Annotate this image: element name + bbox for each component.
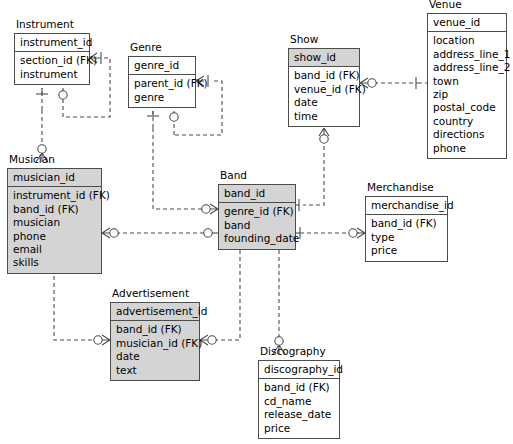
field-attribute: postal_code bbox=[433, 101, 502, 114]
attribute-rows: band_id (FK) musician_id (FK) date text bbox=[111, 321, 199, 380]
field-attribute: phone bbox=[13, 230, 97, 243]
field-attribute: genre bbox=[134, 91, 191, 104]
attribute-rows: band_id (FK) venue_id (FK) date time bbox=[289, 67, 359, 126]
er-diagram-canvas: Instrument instrument_id section_id (FK)… bbox=[0, 0, 513, 444]
field-attribute: band_id (FK) bbox=[294, 69, 355, 82]
field-attribute: parent_id (FK) bbox=[134, 77, 191, 90]
field-attribute: release_date bbox=[264, 408, 335, 421]
attribute-rows: instrument_id (FK) band_id (FK) musician… bbox=[8, 187, 101, 272]
primary-key-row: show_id bbox=[289, 49, 359, 67]
entity-title-advertisement: Advertisement bbox=[112, 287, 189, 300]
attribute-rows: genre_id (FK) band founding_date bbox=[219, 203, 295, 248]
field-attribute: band_id (FK) bbox=[371, 217, 443, 230]
field-attribute: town bbox=[433, 75, 502, 88]
field-attribute: section_id (FK) bbox=[20, 54, 85, 67]
field-attribute: address_line_2 bbox=[433, 61, 502, 74]
entity-title-musician: Musician bbox=[9, 153, 55, 166]
entity-title-band: Band bbox=[220, 169, 247, 182]
field-primary-key: genre_id bbox=[134, 59, 191, 72]
relationship-show-venue bbox=[360, 77, 427, 89]
relationship-discography-band bbox=[273, 233, 285, 354]
field-primary-key: musician_id bbox=[13, 171, 97, 184]
field-primary-key: venue_id bbox=[433, 16, 502, 29]
field-primary-key: show_id bbox=[294, 51, 355, 64]
primary-key-row: venue_id bbox=[428, 14, 506, 32]
field-attribute: instrument_id (FK) bbox=[13, 189, 97, 202]
field-attribute: location bbox=[433, 34, 502, 47]
relationship-show-band bbox=[296, 128, 329, 211]
field-attribute: founding_date bbox=[224, 232, 291, 245]
field-attribute: cd_name bbox=[264, 395, 335, 408]
relationship-genre-band bbox=[153, 128, 218, 214]
field-primary-key: advertisement_id bbox=[116, 305, 195, 318]
primary-key-row: advertisement_id bbox=[111, 303, 199, 321]
field-primary-key: instrument_id bbox=[20, 36, 85, 49]
field-attribute: date bbox=[116, 350, 195, 363]
field-attribute: text bbox=[116, 364, 195, 377]
field-attribute: band_id (FK) bbox=[13, 203, 97, 216]
primary-key-row: instrument_id bbox=[15, 34, 89, 52]
field-attribute: musician_id (FK) bbox=[116, 337, 195, 350]
attribute-rows: parent_id (FK) genre bbox=[129, 75, 195, 107]
field-attribute: band_id (FK) bbox=[116, 323, 195, 336]
primary-key-row: discography_id bbox=[259, 361, 339, 379]
relationship-musician-band bbox=[102, 228, 218, 238]
field-attribute: zip bbox=[433, 88, 502, 101]
field-attribute: skills bbox=[13, 256, 97, 269]
entity-title-venue: Venue bbox=[429, 0, 462, 11]
field-primary-key: merchandise_id bbox=[371, 199, 443, 212]
field-attribute: country bbox=[433, 115, 502, 128]
field-attribute: price bbox=[264, 422, 335, 435]
field-attribute: musician bbox=[13, 216, 97, 229]
entity-title-genre: Genre bbox=[130, 41, 162, 54]
field-attribute: time bbox=[294, 110, 355, 123]
field-attribute: phone bbox=[433, 142, 502, 155]
field-attribute: price bbox=[371, 244, 443, 257]
field-attribute: venue_id (FK) bbox=[294, 83, 355, 96]
relationship-advertisement-band bbox=[200, 233, 244, 345]
field-attribute: address_line_1 bbox=[433, 48, 502, 61]
field-attribute: directions bbox=[433, 128, 502, 141]
relationship-band-merchandise bbox=[296, 227, 365, 239]
field-attribute: instrument bbox=[20, 68, 85, 81]
entity-title-instrument: Instrument bbox=[16, 18, 74, 31]
field-attribute: email bbox=[13, 243, 97, 256]
field-attribute: band_id (FK) bbox=[264, 381, 335, 394]
field-attribute: date bbox=[294, 96, 355, 109]
primary-key-row: band_id bbox=[219, 185, 295, 203]
attribute-rows: band_id (FK) type price bbox=[366, 215, 447, 260]
attribute-rows: location address_line_1 address_line_2 t… bbox=[428, 32, 506, 158]
field-attribute: band bbox=[224, 219, 291, 232]
primary-key-row: merchandise_id bbox=[366, 197, 447, 215]
entity-title-discography: Discography bbox=[260, 345, 326, 358]
entity-title-show: Show bbox=[290, 33, 318, 46]
field-primary-key: band_id bbox=[224, 187, 291, 200]
primary-key-row: genre_id bbox=[129, 57, 195, 75]
attribute-rows: band_id (FK) cd_name release_date price bbox=[259, 379, 339, 438]
entity-title-merchandise: Merchandise bbox=[367, 181, 434, 194]
primary-key-row: musician_id bbox=[8, 169, 101, 187]
field-primary-key: discography_id bbox=[264, 363, 335, 376]
attribute-rows: section_id (FK) instrument bbox=[15, 52, 89, 84]
field-attribute: genre_id (FK) bbox=[224, 205, 291, 218]
field-attribute: type bbox=[371, 231, 443, 244]
